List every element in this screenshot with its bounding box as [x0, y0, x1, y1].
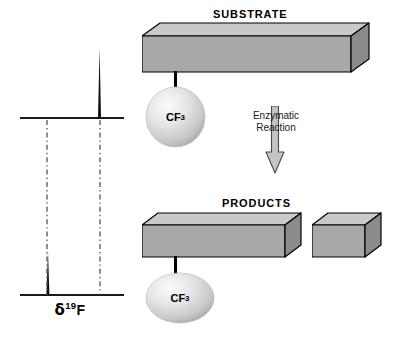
product-labelled-block-shape: [142, 212, 302, 262]
substrate-resonance-peak: [96, 48, 104, 118]
delta-symbol: δ: [54, 301, 65, 319]
reaction-caption-line2: Reaction: [231, 122, 321, 134]
substrate-guide-shape: [99, 120, 101, 295]
substrate-shift-guide-line: [99, 120, 101, 295]
substrate-baseline: [20, 117, 124, 119]
substrate-peak-shape: [96, 48, 104, 118]
substrate-block: [142, 22, 370, 78]
substrate-block-shape: [142, 22, 370, 78]
product-guide-shape: [46, 120, 48, 295]
isotope-superscript: 19: [65, 300, 76, 311]
substrate-title: SUBSTRATE: [213, 8, 288, 20]
figure-root: δ19F SUBSTRATE: [0, 0, 395, 339]
substrate-cf3-tag: CF3: [145, 86, 206, 148]
product-shift-guide-line: [46, 120, 48, 295]
nmr-spectrum-panel: δ19F: [0, 0, 140, 339]
substrate-cf3-ellipse-shape: [145, 86, 206, 148]
products-title: PRODUCTS: [222, 197, 291, 209]
reaction-caption-line1: Enzymatic: [231, 110, 321, 122]
element-symbol: F: [77, 302, 86, 318]
product-cf3-ellipse-shape: [145, 272, 215, 324]
reaction-caption: Enzymatic Reaction: [231, 110, 321, 134]
product-cf3-tag: CF3: [145, 272, 215, 324]
chemical-shift-axis-label: δ19F: [0, 300, 140, 319]
product-cleaved-block: [312, 212, 382, 262]
product-cleaved-block-shape: [312, 212, 382, 262]
products-baseline: [20, 294, 124, 296]
product-labelled-block: [142, 212, 302, 262]
